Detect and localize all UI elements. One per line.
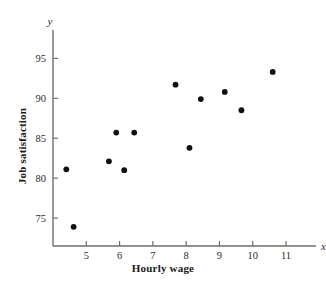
data-point (222, 89, 228, 95)
data-point (121, 167, 127, 173)
x-tick-label: 7 (150, 250, 155, 261)
x-tick-label: 8 (184, 250, 189, 261)
x-axis-ticks: 567891011 (84, 241, 291, 261)
x-variable-label: x (320, 240, 326, 252)
data-point (71, 224, 77, 230)
y-tick-label: 75 (36, 213, 47, 224)
y-tick-label: 85 (36, 133, 47, 144)
data-point (187, 145, 193, 151)
data-point (131, 130, 137, 136)
scatter-plot: 7580859095 567891011 y x (0, 0, 326, 295)
y-variable-label: y (47, 15, 53, 27)
y-axis-ticks: 7580859095 (36, 53, 59, 224)
figure-container: 7580859095 567891011 y x Hourly wage Job… (0, 0, 326, 295)
data-point (63, 166, 69, 172)
data-point (239, 107, 245, 113)
y-tick-label: 80 (36, 173, 47, 184)
x-tick-label: 6 (117, 250, 122, 261)
y-tick-label: 95 (36, 53, 47, 64)
figure-caption (8, 283, 326, 295)
data-point (270, 69, 276, 75)
axes-group (53, 30, 316, 246)
y-axis-title: Job satisfaction (16, 86, 28, 206)
x-tick-label: 10 (247, 250, 258, 261)
x-tick-label: 9 (217, 250, 222, 261)
data-point (113, 130, 119, 136)
y-tick-label: 90 (36, 93, 47, 104)
data-point (106, 158, 112, 164)
x-tick-label: 5 (84, 250, 89, 261)
data-point (198, 96, 204, 102)
x-axis-title: Hourly wage (0, 262, 326, 274)
data-points-group (63, 69, 275, 230)
data-point (173, 82, 179, 88)
x-tick-label: 11 (281, 250, 291, 261)
